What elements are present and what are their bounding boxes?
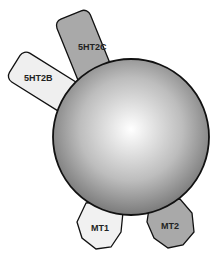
cell-sphere [53, 59, 209, 215]
receptor-diagram: 5HT2C 5HT2B MT1 MT2 [0, 0, 222, 263]
receptor-mt1-label: MT1 [91, 223, 109, 233]
receptor-5ht2c-label: 5HT2C [78, 42, 107, 52]
receptor-5ht2b-label: 5HT2B [24, 73, 53, 83]
receptor-mt2-label: MT2 [161, 221, 179, 231]
